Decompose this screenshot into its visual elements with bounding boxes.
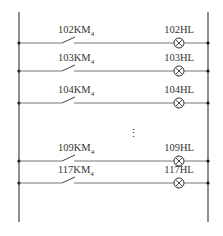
rung: 102KM4102HL (17, 24, 209, 48)
junction-node (206, 41, 209, 44)
normally-open-contact-icon (62, 37, 75, 43)
lamp-label: 109HL (164, 142, 194, 153)
lamp-label: 104HL (164, 84, 194, 95)
lamp-label: 117HL (164, 164, 193, 175)
ellipsis: ⋮ (128, 127, 139, 139)
junction-node (206, 69, 209, 72)
contact-label: 102KM4 (58, 24, 95, 38)
lamp-icon (174, 178, 184, 188)
contact-label: 103KM4 (58, 52, 95, 66)
lamp-icon (174, 66, 184, 76)
rung: 109KM4109HL (17, 142, 209, 166)
lamp-label: 103HL (164, 52, 194, 63)
lamp-label: 102HL (164, 24, 194, 35)
normally-open-contact-icon (62, 155, 75, 161)
lamp-icon (174, 98, 184, 108)
junction-node (206, 159, 209, 162)
lamp-icon (174, 38, 184, 48)
normally-open-contact-icon (62, 65, 75, 71)
rung: 104KM4104HL (17, 84, 209, 108)
contact-label: 104KM4 (58, 84, 95, 98)
contact-label: 117KM4 (58, 164, 94, 178)
normally-open-contact-icon (62, 177, 75, 183)
normally-open-contact-icon (62, 97, 75, 103)
rung: 117KM4117HL (17, 164, 209, 188)
contact-label: 109KM4 (58, 142, 95, 156)
junction-node (206, 181, 209, 184)
ladder-diagram: 102KM4102HL103KM4103HL104KM4104HL109KM41… (0, 0, 223, 236)
rung: 103KM4103HL (17, 52, 209, 76)
junction-node (206, 101, 209, 104)
